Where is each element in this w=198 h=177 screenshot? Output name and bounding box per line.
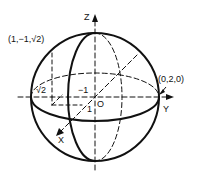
point-top-left-label: (1,−1,√2) xyxy=(8,34,44,44)
one-label: 1 xyxy=(87,104,92,114)
y-arrow-icon xyxy=(166,94,174,100)
point-right-label: (0,2,0) xyxy=(158,74,184,84)
y-label: Y xyxy=(163,104,169,114)
z-label: Z xyxy=(84,12,90,22)
sphere-diagram: Z Y X O (1,−1,√2) (0,2,0) √2 −1 1 xyxy=(0,0,198,177)
minus-one-label: −1 xyxy=(78,85,88,95)
origin-label: O xyxy=(97,99,104,109)
x-label: X xyxy=(58,135,64,145)
z-arrow-icon xyxy=(92,14,98,22)
sqrt2-label: √2 xyxy=(36,85,46,95)
